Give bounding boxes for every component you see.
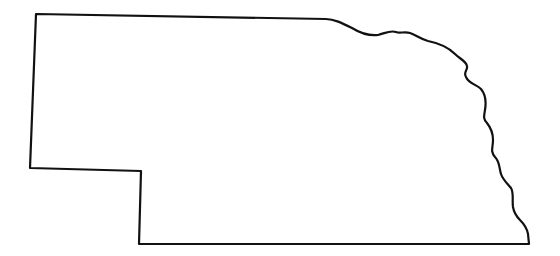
nebraska-map xyxy=(0,0,560,256)
state-outline xyxy=(30,14,529,244)
